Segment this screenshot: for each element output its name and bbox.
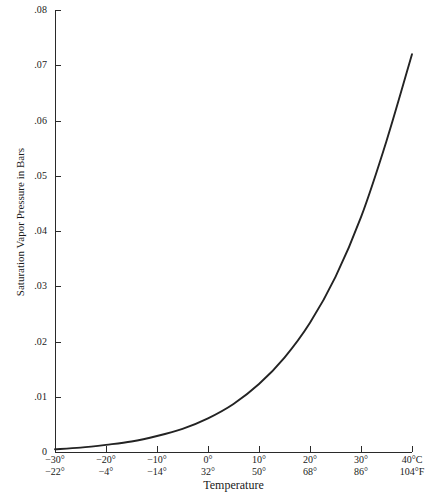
x-axis-title: Temperature xyxy=(55,478,412,493)
plot-curve-layer xyxy=(0,0,429,496)
saturation-vapor-pressure-curve xyxy=(55,54,412,449)
chart-figure: .08.07.06.05.04.03.02.010 −30°−22°−20°−4… xyxy=(0,0,429,496)
y-axis-title: Saturation Vapor Pressure in Bars xyxy=(14,102,26,342)
